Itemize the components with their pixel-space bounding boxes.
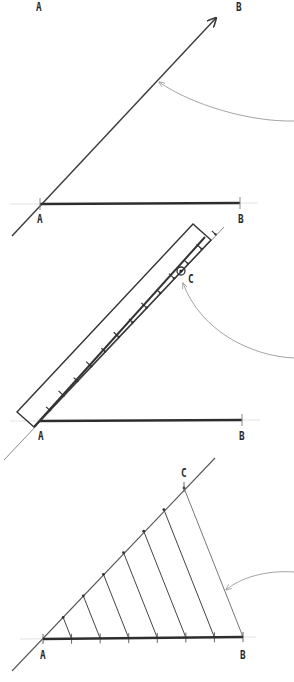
point-label-a: A xyxy=(37,212,43,225)
division-point xyxy=(122,551,125,554)
ruler-edge xyxy=(34,237,205,427)
tick-dot xyxy=(90,365,92,367)
parallel-line xyxy=(144,531,186,637)
point-label-a: A xyxy=(36,0,42,13)
point-label-a: A xyxy=(38,429,44,442)
tick-dot xyxy=(76,380,78,382)
division-point xyxy=(142,530,145,533)
tick-dot xyxy=(62,394,64,396)
tick-dot xyxy=(187,262,189,264)
point-label-a: A xyxy=(40,648,46,661)
tick-dot xyxy=(104,350,106,352)
point-label-b: B xyxy=(236,0,242,13)
point-label-b: B xyxy=(238,212,244,225)
parallel-line xyxy=(63,617,71,638)
segment-ab xyxy=(43,637,243,639)
division-point xyxy=(62,616,65,619)
segment-ab xyxy=(40,420,242,421)
tick-dot xyxy=(201,248,203,250)
construction-diagram xyxy=(0,0,294,682)
point-label-c: C xyxy=(181,466,187,479)
parallel-line xyxy=(103,574,128,638)
segment-ab xyxy=(40,203,240,204)
point-label-b: B xyxy=(240,648,246,661)
parallel-line xyxy=(83,596,100,639)
point-c-dot xyxy=(179,269,182,272)
parallel-line xyxy=(124,553,158,638)
ruler xyxy=(17,224,211,427)
step-2-panel xyxy=(4,224,294,460)
division-point xyxy=(162,508,165,511)
tick-dot xyxy=(49,409,51,411)
tick-dot xyxy=(214,233,216,235)
tick-dot xyxy=(159,292,161,294)
pointer-arrow-icon xyxy=(183,283,294,358)
division-point xyxy=(102,573,105,576)
tick-dot xyxy=(131,321,133,323)
pointer-arrow-icon xyxy=(226,572,294,590)
parallel-lines xyxy=(43,482,243,644)
tick-dot xyxy=(173,277,175,279)
step-1-panel xyxy=(10,18,294,236)
parallel-line xyxy=(184,488,243,637)
tick-dot xyxy=(145,306,147,308)
parallel-line xyxy=(164,510,215,638)
tick-dot xyxy=(118,336,120,338)
pointer-arrow-icon xyxy=(159,82,294,121)
point-label-b: B xyxy=(239,429,245,442)
step-3-panel xyxy=(12,458,294,671)
division-point xyxy=(82,594,85,597)
point-label-c: C xyxy=(188,272,194,285)
